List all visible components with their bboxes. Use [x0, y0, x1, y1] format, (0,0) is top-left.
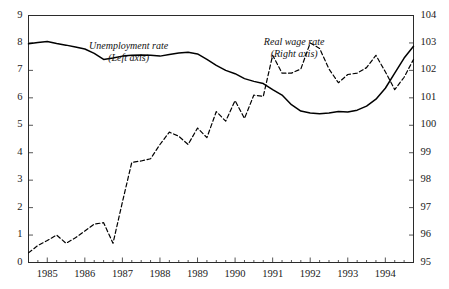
y-axis-left-tick-label: 5 [1, 119, 23, 130]
y-axis-left-tick-label: 0 [1, 257, 23, 268]
y-axis-left-tick-label: 6 [1, 92, 23, 103]
plot-frame [29, 16, 414, 263]
y-axis-right-tick-label: 99 [421, 147, 449, 158]
chart-annotation-realwage-legend: Real wage rate(Right axis) [264, 36, 325, 60]
x-axis-tick-label: 1989 [180, 269, 216, 280]
y-axis-right-tick-label: 103 [421, 37, 449, 48]
y-axis-right-tick-label: 95 [421, 257, 449, 268]
series-line-unemployment-rate [29, 42, 414, 114]
x-axis-tick-label: 1992 [292, 269, 328, 280]
y-axis-left-tick-label: 3 [1, 174, 23, 185]
y-axis-ticks-right [409, 16, 414, 263]
chart-annotation-line: (Right axis) [264, 48, 325, 60]
figure-chart-unemployment-real-wage: 0123456789959697989910010110210310419851… [0, 0, 449, 289]
x-axis-tick-label: 1990 [217, 269, 253, 280]
x-axis-tick-label: 1987 [104, 269, 140, 280]
chart-annotation-unemployment-legend: Unemployment rate(Left axis) [89, 40, 168, 64]
y-axis-left-tick-label: 7 [1, 64, 23, 75]
x-axis-tick-label: 1985 [29, 269, 65, 280]
x-axis-minor-ticks [29, 258, 414, 263]
x-axis-tick-label: 1991 [255, 269, 291, 280]
x-axis-tick-label: 1988 [142, 269, 178, 280]
chart-annotation-line: Unemployment rate [89, 40, 168, 52]
y-axis-right-tick-label: 96 [421, 229, 449, 240]
y-axis-ticks-left [29, 16, 34, 263]
y-axis-left-tick-label: 4 [1, 147, 23, 158]
y-axis-right-tick-label: 101 [421, 92, 449, 103]
y-axis-left-tick-label: 9 [1, 10, 23, 21]
chart-plot-area [0, 0, 449, 289]
x-axis-tick-label: 1993 [330, 269, 366, 280]
y-axis-right-tick-label: 97 [421, 202, 449, 213]
x-axis-tick-label: 1994 [367, 269, 403, 280]
y-axis-right-tick-label: 98 [421, 174, 449, 185]
chart-annotation-line: Real wage rate [264, 36, 325, 48]
y-axis-left-tick-label: 2 [1, 202, 23, 213]
y-axis-left-tick-label: 8 [1, 37, 23, 48]
y-axis-right-tick-label: 102 [421, 64, 449, 75]
chart-annotation-line: (Left axis) [89, 52, 168, 64]
series-line-real-wage-rate [29, 43, 414, 253]
y-axis-right-tick-label: 104 [421, 10, 449, 21]
y-axis-right-tick-label: 100 [421, 119, 449, 130]
y-axis-left-tick-label: 1 [1, 229, 23, 240]
x-axis-tick-label: 1986 [67, 269, 103, 280]
